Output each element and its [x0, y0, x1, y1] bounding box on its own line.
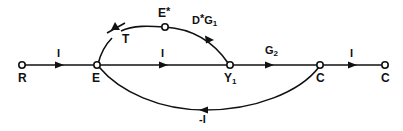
node-label-C2: C — [381, 72, 390, 84]
node-label-E-star: E* — [158, 6, 170, 19]
edge-C1-C2 — [322, 62, 383, 69]
arrowhead-Y1-C1 — [265, 62, 274, 69]
signal-flow-graph-figure: R E E* Y1 C C I I G2 I D*G1 -I T — [0, 0, 403, 131]
arrowhead-E-Y1 — [159, 62, 168, 69]
arrowhead-R-E — [55, 62, 64, 69]
edge-label-E-Y1: I — [161, 48, 164, 59]
node-label-R: R — [18, 72, 27, 84]
edge-R-E — [25, 62, 95, 69]
edge-label-Y1-C1: G2 — [265, 45, 278, 58]
node-C1 — [317, 62, 323, 68]
node-label-Y1: Y1 — [224, 72, 236, 86]
node-R — [19, 62, 25, 68]
edge-label-D-G1: D*G1 — [192, 13, 217, 28]
edge-E-Y1 — [99, 62, 228, 69]
edge-label-feedback: -I — [199, 114, 206, 125]
node-E-star — [162, 24, 168, 30]
node-label-C1: C — [316, 72, 325, 84]
switch-label-T: T — [122, 33, 129, 45]
node-label-E: E — [92, 72, 100, 84]
arrowhead-C1-C2 — [348, 62, 357, 69]
node-E — [94, 62, 100, 68]
node-C2 — [382, 62, 388, 68]
edge-Y1-C1 — [232, 62, 318, 69]
edge-C1-E — [99, 67, 319, 114]
edge-label-R-E: I — [57, 48, 60, 59]
edge-label-C1-C2: I — [350, 48, 353, 59]
node-Y1 — [227, 62, 233, 68]
